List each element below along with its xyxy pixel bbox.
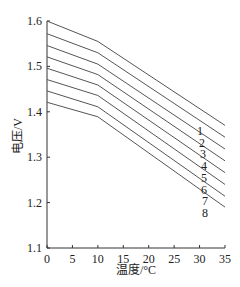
x-tick-label: 5 [69, 252, 75, 266]
line-chart: 051015202530351.11.21.31.41.51.6 1234567… [0, 0, 240, 287]
y-tick-label: 1.6 [27, 14, 42, 28]
x-axis-label: 温度/°C [116, 262, 156, 277]
x-tick-label: 30 [194, 252, 206, 266]
y-tick-label: 1.5 [27, 59, 42, 73]
x-tick-label: 10 [92, 252, 104, 266]
y-tick-label: 1.2 [27, 196, 42, 210]
y-tick-label: 1.4 [27, 105, 42, 119]
y-tick-label: 1.1 [27, 241, 42, 255]
x-tick-label: 35 [219, 252, 231, 266]
y-axis-label: 电压/V [11, 118, 25, 154]
x-tick-label: 25 [168, 252, 180, 266]
x-tick-label: 0 [44, 252, 50, 266]
y-tick-label: 1.3 [27, 150, 42, 164]
series-line-5 [47, 68, 225, 172]
series-label-8: 8 [202, 206, 208, 220]
series-lines [47, 21, 225, 207]
series-labels: 12345678 [197, 124, 208, 220]
